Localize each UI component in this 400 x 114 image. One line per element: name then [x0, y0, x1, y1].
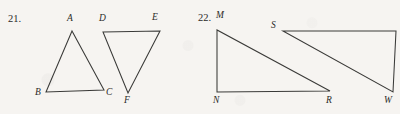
- vertex-label-m: M: [216, 11, 224, 21]
- vertex-label-s: S: [271, 21, 276, 31]
- problem-number-21: 21.: [8, 14, 21, 25]
- vertex-label-n: N: [213, 96, 220, 106]
- vertex-label-b: B: [35, 88, 41, 98]
- triangle-def-outline: [103, 31, 160, 93]
- worksheet-page: 21. A B C D E F 22. M N R S W: [0, 0, 400, 114]
- triangle-sw-outline: [283, 31, 396, 92]
- vertex-label-a: A: [67, 14, 73, 24]
- triangle-mnr-outline: [217, 30, 330, 92]
- vertex-label-w: W: [384, 96, 392, 106]
- vertex-label-e: E: [152, 13, 158, 23]
- vertex-label-r: R: [326, 96, 332, 106]
- vertex-label-d: D: [99, 14, 106, 24]
- vertex-label-c: C: [106, 88, 113, 98]
- triangle-abc-outline: [46, 31, 104, 92]
- problem-number-22: 22.: [198, 13, 211, 24]
- vertex-label-f: F: [124, 96, 130, 106]
